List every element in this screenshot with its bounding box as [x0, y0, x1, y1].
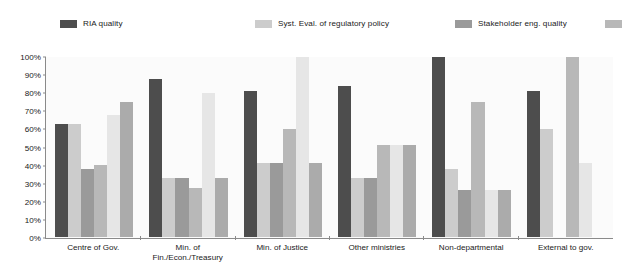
y-axis-tick-mark: [43, 147, 46, 148]
bar[interactable]: [364, 178, 377, 237]
bar[interactable]: [270, 163, 283, 237]
y-axis-tick-label: 0%: [7, 234, 41, 243]
y-axis-tick-mark: [43, 238, 46, 239]
bar[interactable]: [579, 163, 592, 237]
bar[interactable]: [377, 145, 390, 237]
bar[interactable]: [81, 169, 94, 237]
y-axis-tick-mark: [43, 219, 46, 220]
bar[interactable]: [498, 190, 511, 237]
legend-item-guidance-reg-management-tools: Guidance reg. management tools: [605, 16, 623, 31]
bar[interactable]: [202, 93, 215, 237]
bar[interactable]: [566, 57, 579, 237]
bar-group: [424, 57, 518, 237]
y-axis-tick-mark: [43, 165, 46, 166]
bar[interactable]: [296, 57, 309, 237]
legend-label-syst-eval-of-regulatory-policy: Syst. Eval. of regulatory policy: [278, 19, 389, 28]
y-axis-tick-label: 30%: [7, 179, 41, 188]
x-axis-category-label: Min. of Fin./Econ./Treasury: [141, 243, 236, 263]
bar[interactable]: [189, 188, 202, 237]
bar[interactable]: [485, 190, 498, 237]
bar[interactable]: [309, 163, 322, 237]
x-axis-category-label: Centre of Gov.: [46, 243, 141, 263]
y-axis-tick-mark: [43, 129, 46, 130]
bar[interactable]: [403, 145, 416, 237]
bar-groups: [47, 57, 613, 237]
bar[interactable]: [458, 190, 471, 237]
bar[interactable]: [120, 102, 133, 237]
chart-plot-area: 100%90%80%70%60%50%40%30%20%10%0%: [45, 57, 613, 239]
bar[interactable]: [162, 178, 175, 237]
bar[interactable]: [540, 129, 553, 237]
y-axis-tick-label: 90%: [7, 71, 41, 80]
bar[interactable]: [283, 129, 296, 237]
bar[interactable]: [244, 91, 257, 237]
bar[interactable]: [471, 102, 484, 237]
legend-swatch-ria-quality: [60, 20, 77, 28]
legend-swatch-syst-eval-of-regulatory-policy: [255, 20, 272, 28]
bar[interactable]: [175, 178, 188, 237]
legend-item-syst-eval-of-regulatory-policy: Syst. Eval. of regulatory policy: [255, 16, 455, 31]
legend-item-ria-quality: RIA quality: [60, 16, 255, 31]
y-axis-tick-mark: [43, 75, 46, 76]
y-axis-tick-label: 100%: [7, 53, 41, 62]
legend-label-stakeholder-eng-quality: Stakeholder eng. quality: [478, 19, 567, 28]
bar[interactable]: [390, 145, 403, 237]
y-axis-tick-label: 80%: [7, 89, 41, 98]
bar-group: [47, 57, 141, 237]
bar[interactable]: [257, 163, 270, 237]
y-axis-tick-label: 70%: [7, 107, 41, 116]
x-axis-category-label: Min. of Justice: [235, 243, 330, 263]
chart-plot-wrapper: 100%90%80%70%60%50%40%30%20%10%0%: [45, 57, 613, 239]
bar-group: [141, 57, 235, 237]
bar-group: [330, 57, 424, 237]
bar[interactable]: [68, 124, 81, 237]
x-axis-category-label: Other ministries: [330, 243, 425, 263]
bar[interactable]: [149, 79, 162, 237]
x-axis-category-label: External to gov.: [519, 243, 614, 263]
y-axis-tick-mark: [43, 111, 46, 112]
y-axis-tick-mark: [43, 183, 46, 184]
bar[interactable]: [55, 124, 68, 237]
legend-label-ria-quality: RIA quality: [83, 19, 123, 28]
bar[interactable]: [351, 178, 364, 237]
y-axis-tick-label: 50%: [7, 143, 41, 152]
bar-group: [519, 57, 613, 237]
y-axis-tick-mark: [43, 57, 46, 58]
bar[interactable]: [432, 57, 445, 237]
x-axis-labels: Centre of Gov.Min. of Fin./Econ./Treasur…: [46, 243, 613, 263]
x-axis-category-label: Non-departmental: [424, 243, 519, 263]
bar[interactable]: [445, 169, 458, 237]
bar[interactable]: [338, 86, 351, 237]
y-axis-tick-mark: [43, 201, 46, 202]
y-axis-tick-label: 40%: [7, 161, 41, 170]
legend-swatch-guidance-reg-management-tools: [605, 20, 622, 28]
y-axis-tick-mark: [43, 93, 46, 94]
y-axis-tick-label: 10%: [7, 215, 41, 224]
legend-swatch-stakeholder-eng-quality: [455, 20, 472, 28]
y-axis-tick-label: 20%: [7, 197, 41, 206]
bar[interactable]: [215, 178, 228, 237]
bar-group: [236, 57, 330, 237]
bar[interactable]: [527, 91, 540, 237]
y-axis-tick-label: 60%: [7, 125, 41, 134]
bar[interactable]: [107, 115, 120, 237]
bar[interactable]: [94, 165, 107, 237]
chart-legend: RIA quality Syst. Eval. of regulatory po…: [60, 16, 605, 31]
legend-item-stakeholder-eng-quality: Stakeholder eng. quality: [455, 16, 605, 31]
